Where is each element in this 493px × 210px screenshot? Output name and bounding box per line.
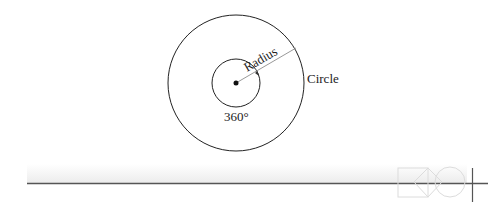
circle-label: Circle <box>307 71 339 86</box>
radius-label: Radius <box>241 44 280 75</box>
circle-diagram: Radius Circle 360° <box>0 0 493 210</box>
center-point <box>234 81 239 86</box>
angle-label: 360° <box>224 109 249 124</box>
footer-band <box>27 164 467 183</box>
